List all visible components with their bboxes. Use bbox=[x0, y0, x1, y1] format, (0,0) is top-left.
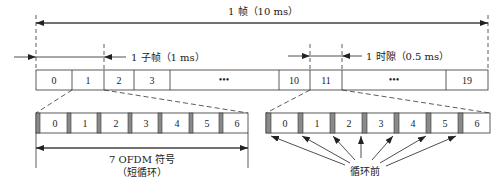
ofdm-symbol-count-label: 7 OFDM 符号 bbox=[109, 153, 175, 165]
subframe-cell: 1 bbox=[86, 75, 91, 86]
ellipsis-cell: ••• bbox=[389, 74, 400, 85]
subframe-duration-indicator: 1 子帧（1 ms） bbox=[14, 44, 205, 70]
ofdm-symbol: 0 bbox=[283, 118, 288, 129]
subframe-cell: 3 bbox=[150, 75, 155, 86]
ofdm-symbol: 6 bbox=[475, 118, 480, 129]
ofdm-symbol: 1 bbox=[83, 118, 88, 129]
ofdm-symbol: 2 bbox=[114, 118, 119, 129]
ofdm-symbol: 5 bbox=[205, 118, 210, 129]
lte-frame-structure-diagram: 1 帧（10 ms） 1 子帧（1 ms） 1 时隙（0.5 ms） 0 1 2… bbox=[0, 0, 500, 183]
ofdm-symbol: 5 bbox=[443, 118, 448, 129]
subframe-cell: 0 bbox=[52, 75, 57, 86]
ofdm-symbol: 4 bbox=[175, 118, 180, 129]
frame-subframe-row: 0 1 2 3 ••• 10 11 ••• 19 bbox=[36, 70, 488, 90]
ofdm-symbol: 1 bbox=[315, 118, 320, 129]
frame-label: 1 帧（10 ms） bbox=[228, 5, 298, 17]
subframe-label: 1 子帧（1 ms） bbox=[131, 51, 205, 63]
ofdm-symbol: 6 bbox=[235, 118, 240, 129]
cyclic-prefix-label: 循环前 bbox=[350, 165, 380, 177]
ofdm-symbol: 4 bbox=[411, 118, 416, 129]
subframe-cell: 2 bbox=[117, 75, 122, 86]
slot-label: 1 时隙（0.5 ms） bbox=[366, 50, 449, 62]
subframe-cell: 19 bbox=[462, 75, 472, 86]
ofdm-symbol: 0 bbox=[53, 118, 58, 129]
short-cp-label: （短循环） bbox=[117, 166, 167, 178]
cyclic-prefix-pointers bbox=[271, 136, 456, 166]
slot-duration-indicator: 1 时隙（0.5 ms） bbox=[288, 44, 449, 70]
subframe-cell: 10 bbox=[289, 75, 299, 86]
ellipsis-cell: ••• bbox=[219, 74, 230, 85]
ofdm-symbol: 2 bbox=[347, 118, 352, 129]
expansion-guides bbox=[36, 90, 490, 113]
subframe-cell: 11 bbox=[321, 75, 331, 86]
ofdm-symbol: 3 bbox=[379, 118, 384, 129]
slot-symbols-right: 0 1 2 3 4 5 6 循环前 bbox=[266, 113, 490, 177]
slot-symbols-left: 0 1 2 3 4 5 6 7 OFDM 符号 （短循环） bbox=[36, 113, 248, 178]
ofdm-symbol: 3 bbox=[144, 118, 149, 129]
